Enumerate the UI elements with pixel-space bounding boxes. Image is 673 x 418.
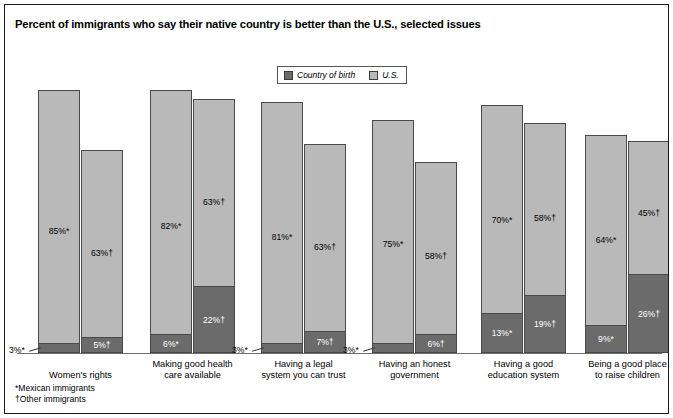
bar-other: 26%†45%† (628, 141, 669, 353)
footnote-other: †Other immigrants (15, 394, 95, 405)
segment-country-of-birth: 9%* (586, 325, 626, 352)
value-label-country-of-birth: 26%† (629, 309, 669, 319)
category-label-line: to raise children (553, 370, 670, 381)
value-label-us: 45%† (629, 208, 669, 218)
footnote-mexican: *Mexican immigrants (15, 383, 95, 394)
category-label: Being a good placeto raise children (553, 359, 670, 381)
chart-frame: Percent of immigrants who say their nati… (4, 4, 669, 414)
bar-mexican: 9%*64%* (585, 135, 627, 353)
bar-group: 9%*64%*26%†45%†Being a good placeto rais… (5, 5, 669, 414)
category-label-line: Being a good place (553, 359, 670, 370)
value-label-country-of-birth: 9%* (586, 334, 626, 344)
plot-area: 3%*85%*5%†63%†Women's rights6%*82%*22%†6… (5, 5, 669, 414)
footnotes: *Mexican immigrants †Other immigrants (15, 383, 95, 404)
value-label-us: 64%* (586, 235, 626, 245)
segment-country-of-birth: 26%† (629, 274, 669, 352)
